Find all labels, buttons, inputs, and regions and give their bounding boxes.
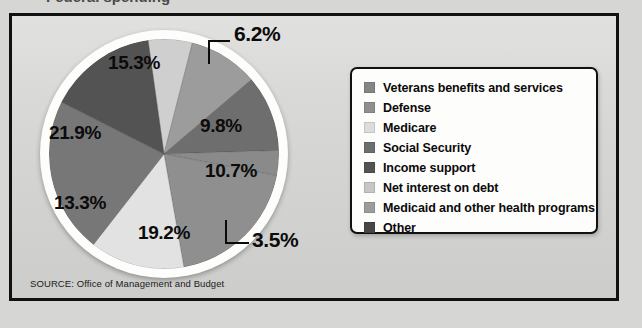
legend-item-social-security[interactable]: Social Security <box>364 138 586 157</box>
callout-label-veterans: 3.5% <box>252 228 298 252</box>
legend-label-income-support: Income support <box>383 161 475 175</box>
partial-title-text: Federal spending <box>46 0 170 5</box>
legend-swatch-medicare <box>364 122 375 133</box>
legend-label-net-interest: Net interest on debt <box>383 181 498 195</box>
legend-label-other: Other <box>383 221 416 235</box>
legend-swatch-defense <box>364 102 375 113</box>
chart-frame: 9.8% 10.7% 19.2% 13.3% 21.9% 15.3% 6.2% … <box>9 13 619 301</box>
legend: Veterans benefits and services Defense M… <box>350 67 598 234</box>
legend-label-veterans: Veterans benefits and services <box>383 81 563 95</box>
legend-swatch-veterans <box>364 82 375 93</box>
legend-label-medicaid: Medicaid and other health programs <box>383 201 595 215</box>
legend-swatch-income-support <box>364 162 375 173</box>
legend-item-veterans[interactable]: Veterans benefits and services <box>364 78 586 97</box>
slice-label-social-security: 10.7% <box>205 160 257 182</box>
legend-label-defense: Defense <box>383 101 431 115</box>
legend-item-defense[interactable]: Defense <box>364 98 586 117</box>
legend-label-medicare: Medicare <box>383 121 436 135</box>
slice-label-income-support: 21.9% <box>49 122 101 144</box>
legend-label-social-security: Social Security <box>383 141 471 155</box>
callout-leader-medicare <box>208 40 230 64</box>
slice-label-defense: 19.2% <box>138 222 190 244</box>
callout-leader-veterans <box>225 220 249 244</box>
slice-label-medicaid: 9.8% <box>200 115 242 137</box>
legend-swatch-medicaid <box>364 202 375 213</box>
slice-label-net-interest: 13.3% <box>54 192 106 214</box>
legend-item-medicare[interactable]: Medicare <box>364 118 586 137</box>
callout-label-medicare: 6.2% <box>234 22 280 46</box>
legend-item-other[interactable]: Other <box>364 218 586 237</box>
legend-swatch-social-security <box>364 142 375 153</box>
legend-item-income-support[interactable]: Income support <box>364 158 586 177</box>
legend-item-net-interest[interactable]: Net interest on debt <box>364 178 586 197</box>
legend-swatch-other <box>364 222 375 233</box>
source-note: SOURCE: Office of Management and Budget <box>30 278 224 289</box>
legend-swatch-net-interest <box>364 182 375 193</box>
slice-label-other: 15.3% <box>108 52 160 74</box>
legend-item-medicaid[interactable]: Medicaid and other health programs <box>364 198 586 217</box>
cut-off-title-strip: Federal spending <box>0 0 642 12</box>
